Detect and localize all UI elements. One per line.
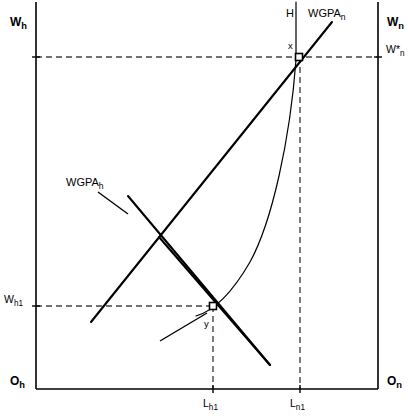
diagram-canvas: Wh Wn Oh On W*n Wh1 Lh1 Ln1 WGPAh WGPAn … <box>0 0 408 417</box>
wage-label-w-star-n: W*n <box>386 43 405 58</box>
origin-right-main: O <box>387 374 396 388</box>
left-axis-title-main: W <box>10 15 22 29</box>
dashed-guides <box>36 57 378 389</box>
wage-label-w-star-n-sub: n <box>400 49 405 58</box>
origin-left-label: Oh <box>10 374 25 390</box>
point-label-y: y <box>204 318 209 329</box>
economics-diagram-svg: Wh Wn Oh On W*n Wh1 Lh1 Ln1 WGPAh WGPAn … <box>0 0 408 417</box>
labor-label-l-n1: Ln1 <box>290 397 305 412</box>
curve-label-wgpa-h-main: WGPA <box>66 176 99 188</box>
right-axis-title-main: W <box>387 15 399 29</box>
point-y-leader <box>160 313 207 341</box>
labor-label-l-h1-sub: h1 <box>209 403 219 412</box>
wage-label-w-h1-sub: h1 <box>14 299 24 308</box>
curve-label-wgpa-h-sub: h <box>99 181 104 191</box>
labor-label-l-h1: Lh1 <box>203 397 218 412</box>
point-label-x: x <box>288 40 293 51</box>
origin-left-sub: h <box>19 380 25 390</box>
wage-label-w-h1-main: W <box>4 293 14 305</box>
origin-right-label: On <box>387 374 402 390</box>
plot-frame <box>36 2 378 389</box>
wage-label-w-h1: Wh1 <box>4 293 23 308</box>
axis-ticks <box>32 57 382 393</box>
curve-label-wgpa-n: WGPAn <box>308 7 346 22</box>
point-x-marker[interactable] <box>296 54 303 61</box>
wgpa-h-label-leader <box>98 192 128 214</box>
origin-left-main: O <box>10 374 19 388</box>
curve-label-wgpa-h: WGPAh <box>66 176 104 191</box>
curve-label-wgpa-n-sub: n <box>341 12 346 22</box>
curve-label-wgpa-n-main: WGPA <box>308 7 341 19</box>
right-axis-title: Wn <box>387 15 404 31</box>
curve-label-h: H <box>286 7 294 19</box>
left-axis-title-sub: h <box>21 21 27 31</box>
wage-label-w-star-n-main: W* <box>386 43 400 55</box>
point-y-marker[interactable] <box>210 303 217 310</box>
wgpa-h-curve <box>128 196 270 365</box>
labor-label-l-n1-sub: n1 <box>296 403 306 412</box>
h-curve <box>196 2 296 316</box>
left-axis-title: Wh <box>10 15 27 31</box>
origin-right-sub: n <box>396 380 402 390</box>
right-axis-title-sub: n <box>398 21 404 31</box>
